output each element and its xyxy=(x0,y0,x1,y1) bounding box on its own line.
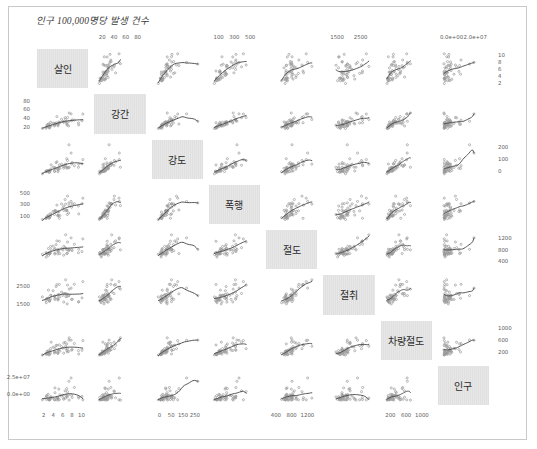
top-tick-4-0: 100 xyxy=(213,34,223,40)
panel-plot xyxy=(152,230,203,269)
bottom-tick-3-0: 0 xyxy=(158,412,161,418)
scatter-panel-2-3 xyxy=(91,137,148,182)
scatter-panel-3-2 xyxy=(149,91,206,136)
variable-label: 강간 xyxy=(111,106,129,121)
scatter-panel-1-8 xyxy=(34,363,91,408)
left-tick-8-1: 0.0e+00 xyxy=(7,391,30,397)
scatter-panel-1-2 xyxy=(34,91,91,136)
scatter-panel-1-5 xyxy=(34,227,91,272)
loess-smooth xyxy=(158,380,197,399)
diagonal-panel-4: 폭행 xyxy=(206,182,263,227)
scatter-panel-2-1 xyxy=(91,46,148,91)
left-tick-2-1: 60 xyxy=(23,106,30,112)
bottom-tick-1-0: 2 xyxy=(42,412,45,418)
panel-plot xyxy=(438,94,489,133)
right-tick-7-2: 200 xyxy=(498,349,508,355)
scatter-panel-5-2 xyxy=(263,91,320,136)
variable-label: 차량절도 xyxy=(388,333,424,348)
scatter-panel-1-3 xyxy=(34,137,91,182)
scatter-panel-5-8 xyxy=(263,363,320,408)
left-tick-2-3: 20 xyxy=(23,124,30,130)
variable-label: 절취 xyxy=(340,287,358,302)
scatter-panel-8-6 xyxy=(435,272,492,317)
panel-plot xyxy=(94,140,145,179)
panel-plot xyxy=(209,366,260,405)
top-tick-8-1: 2.0e+07 xyxy=(464,34,487,40)
panel-plot xyxy=(381,185,432,224)
panel-plot xyxy=(438,275,489,314)
diagonal-panel-3: 강도 xyxy=(149,137,206,182)
bottom-tick-1-4: 10 xyxy=(78,412,85,418)
top-tick-8-0: 0.0e+00 xyxy=(440,34,463,40)
scatter-panel-4-6 xyxy=(206,272,263,317)
right-tick-1-1: 8 xyxy=(498,59,501,65)
top-tick-4-1: 300 xyxy=(229,34,239,40)
panel-plot xyxy=(323,185,374,224)
loess-smooth xyxy=(387,157,410,171)
panel-plot xyxy=(323,94,374,133)
top-tick-2-2: 60 xyxy=(122,34,129,40)
panel-plot xyxy=(37,275,88,314)
scatter-panel-1-4 xyxy=(34,182,91,227)
scatter-panel-6-8 xyxy=(320,363,377,408)
variable-label: 강도 xyxy=(168,152,186,167)
loess-smooth xyxy=(158,117,197,128)
diagonal-panel-1: 살인 xyxy=(34,46,91,91)
scatter-panel-4-3 xyxy=(206,137,263,182)
panel-plot xyxy=(266,321,317,360)
panel-plot xyxy=(37,230,88,269)
scatterplot-matrix: 살인강간강도폭행절도절취차량절도인구 xyxy=(34,46,492,408)
scatter-panel-7-4 xyxy=(378,182,435,227)
panel-plot xyxy=(94,230,145,269)
panel-plot xyxy=(266,185,317,224)
panel-plot xyxy=(266,49,317,88)
panel-plot xyxy=(438,230,489,269)
diagonal-panel-5: 절도 xyxy=(263,227,320,272)
diagonal-panel-8: 인구 xyxy=(435,363,492,408)
panel-plot xyxy=(323,230,374,269)
scatter-panel-7-3 xyxy=(378,137,435,182)
scatter-panel-1-6 xyxy=(34,272,91,317)
panel-plot xyxy=(438,140,489,179)
scatter-panel-6-7 xyxy=(320,318,377,363)
scatter-panel-5-6 xyxy=(263,272,320,317)
scatter-panel-3-1 xyxy=(149,46,206,91)
panel-plot xyxy=(152,275,203,314)
scatter-panel-2-4 xyxy=(91,182,148,227)
diagonal-panel-2: 강간 xyxy=(91,91,148,136)
panel-plot xyxy=(323,140,374,179)
figure-title: 인구 100,000명당 발생 건수 xyxy=(36,13,150,27)
scatter-panel-8-4 xyxy=(435,182,492,227)
right-tick-7-1: 600 xyxy=(498,337,508,343)
scatter-panel-7-5 xyxy=(378,227,435,272)
scatter-panel-4-5 xyxy=(206,227,263,272)
left-tick-2-2: 40 xyxy=(23,115,30,121)
scatter-panel-2-8 xyxy=(91,363,148,408)
scatter-panel-2-5 xyxy=(91,227,148,272)
scatter-panel-2-7 xyxy=(91,318,148,363)
scatter-panel-8-3 xyxy=(435,137,492,182)
right-tick-3-0: 200 xyxy=(498,144,508,150)
variable-label: 살인 xyxy=(54,61,72,76)
panel-plot xyxy=(94,321,145,360)
right-tick-7-0: 1000 xyxy=(498,325,512,331)
panel-plot xyxy=(381,140,432,179)
panel-plot xyxy=(37,366,88,405)
panel-plot xyxy=(37,321,88,360)
scatter-panel-3-6 xyxy=(149,272,206,317)
panel-plot xyxy=(94,185,145,224)
panel-plot xyxy=(94,49,145,88)
scatter-panel-7-6 xyxy=(378,272,435,317)
scatter-panel-1-7 xyxy=(34,318,91,363)
panel-plot xyxy=(209,275,260,314)
left-tick-8-0: 2.5e+07 xyxy=(7,374,30,380)
panel-plot xyxy=(266,275,317,314)
scatter-panel-6-4 xyxy=(320,182,377,227)
right-tick-3-2: 0 xyxy=(498,168,501,174)
scatter-panel-7-1 xyxy=(378,46,435,91)
scatter-panel-3-4 xyxy=(149,182,206,227)
top-tick-6-0: 1500 xyxy=(330,34,344,40)
panel-plot xyxy=(209,94,260,133)
bottom-tick-5-1: 800 xyxy=(286,412,296,418)
scatter-panel-3-8 xyxy=(149,363,206,408)
